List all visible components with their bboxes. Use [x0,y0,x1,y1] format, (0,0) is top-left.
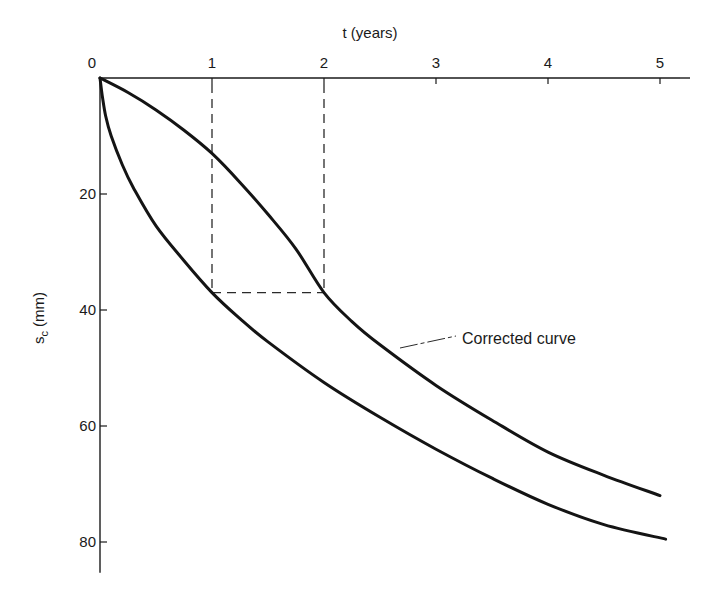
y-tick-label: 40 [79,301,96,318]
x-tick-label: 3 [432,54,440,71]
x-tick-label: 5 [656,54,664,71]
y-tick-label: 20 [79,185,96,202]
y-axis-title: sc (mm) [30,292,50,344]
reference-guides [212,84,324,293]
x-axis-ticks: 012345 [88,54,664,84]
annotation-leader-line [400,336,456,348]
instantaneous-loading-curve [100,78,666,539]
y-tick-label: 80 [79,533,96,550]
plot-curves [100,78,666,539]
x-axis-title: t (years) [342,24,397,41]
y-axis-ticks: 20406080 [79,185,107,550]
y-tick-label: 60 [79,417,96,434]
x-tick-label: 0 [88,54,96,71]
annotation-corrected-curve: Corrected curve [462,330,576,347]
x-tick-label: 4 [544,54,552,71]
x-tick-label: 1 [208,54,216,71]
settlement-time-chart: t (years) sc (mm) 012345 20406080 Correc… [0,0,718,599]
corrected-curve [100,78,660,496]
x-tick-label: 2 [320,54,328,71]
axes [100,78,690,573]
